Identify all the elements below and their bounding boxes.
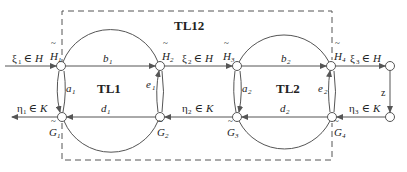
e1-edge-return — [162, 71, 164, 112]
svg-text:1: 1 — [107, 108, 111, 116]
svg-text:~: ~ — [51, 116, 56, 126]
svg-text:∈: ∈ — [192, 102, 206, 114]
svg-text:~: ~ — [335, 38, 340, 48]
label-eta1: η 1 ∈ K — [17, 102, 48, 116]
svg-text:G: G — [334, 126, 342, 138]
svg-text:~: ~ — [224, 38, 229, 48]
node-out-bottom — [386, 113, 395, 122]
svg-text:H: H — [204, 52, 214, 64]
label-xi3: ξ 3 ∈ H — [350, 52, 382, 66]
svg-text:∈: ∈ — [26, 102, 40, 114]
svg-text:~: ~ — [51, 38, 56, 48]
svg-text:K: K — [39, 102, 48, 114]
node-h2 — [156, 62, 165, 71]
svg-text:1: 1 — [72, 88, 76, 96]
label-a2: a 2 — [242, 82, 252, 96]
e1-edge — [157, 71, 159, 112]
svg-text:3: 3 — [234, 132, 239, 140]
svg-text:∈: ∈ — [359, 102, 373, 114]
svg-text:1: 1 — [109, 58, 113, 66]
a1-edge-return — [63, 71, 65, 112]
label-b2: b 2 — [281, 52, 291, 66]
svg-text:~: ~ — [334, 116, 339, 126]
svg-text:e: e — [146, 78, 151, 90]
svg-text:~: ~ — [228, 116, 233, 126]
svg-text:G: G — [49, 126, 57, 138]
svg-text:ξ: ξ — [350, 52, 355, 65]
tl1-lower-arc — [64, 121, 158, 152]
label-g4: ~ G 4 — [334, 116, 346, 140]
node-g1 — [58, 113, 67, 122]
svg-text:~: ~ — [158, 116, 163, 126]
e2-edge — [329, 71, 331, 112]
svg-text:4: 4 — [342, 132, 346, 140]
svg-text:H: H — [372, 52, 382, 64]
label-e2: e 2 — [318, 82, 328, 96]
tl1-label: TL1 — [97, 81, 121, 96]
a1-edge — [57, 71, 60, 112]
label-z: z — [381, 87, 386, 98]
svg-text:∈: ∈ — [359, 52, 373, 64]
label-h3: ~ H 3 — [222, 38, 235, 64]
svg-text:K: K — [372, 102, 381, 114]
svg-text:2: 2 — [286, 108, 290, 116]
label-eta2: η 2 ∈ K — [182, 102, 214, 116]
svg-text:G: G — [157, 126, 165, 138]
node-h4 — [327, 62, 336, 71]
label-h4: ~ H 4 — [333, 38, 346, 64]
svg-text:∈: ∈ — [21, 52, 35, 64]
svg-text:4: 4 — [342, 56, 346, 64]
label-h1: ~ H 1 — [49, 38, 62, 64]
label-b1: b 1 — [103, 52, 113, 66]
svg-text:e: e — [318, 82, 323, 94]
svg-text:2: 2 — [170, 56, 174, 64]
svg-text:1: 1 — [58, 56, 62, 64]
tl12-label: TL12 — [174, 18, 204, 33]
svg-text:K: K — [205, 102, 214, 114]
svg-text:G: G — [227, 126, 235, 138]
tl-diagram: TL12 TL1 TL2 ~ H 1 ~ H 2 ~ — [0, 0, 407, 172]
svg-text:1: 1 — [152, 84, 156, 92]
label-eta3: η 3 ∈ K — [349, 102, 381, 116]
label-h2: ~ H 2 — [161, 38, 174, 64]
svg-text:~: ~ — [163, 38, 168, 48]
svg-text:2: 2 — [165, 132, 169, 140]
svg-text:∈: ∈ — [191, 52, 205, 64]
svg-text:ξ: ξ — [12, 52, 17, 65]
label-d1: d 1 — [101, 102, 111, 116]
tl2-label: TL2 — [276, 81, 300, 96]
svg-text:H: H — [34, 52, 44, 64]
svg-text:2: 2 — [248, 88, 252, 96]
label-xi1: ξ 1 ∈ H — [12, 52, 44, 66]
a2-edge — [239, 71, 241, 112]
node-g3 — [233, 113, 242, 122]
svg-text:2: 2 — [287, 58, 291, 66]
svg-text:ξ: ξ — [182, 52, 187, 65]
svg-text:2: 2 — [324, 88, 328, 96]
svg-text:1: 1 — [57, 132, 61, 140]
a2-edge-return — [234, 71, 236, 112]
label-xi2: ξ 2 ∈ H — [182, 52, 214, 66]
label-a1: a 1 — [66, 82, 76, 96]
e2-edge-return — [334, 71, 336, 112]
tl2-lower-arc — [239, 121, 330, 149]
label-d2: d 2 — [280, 102, 290, 116]
label-e1: e 1 — [146, 78, 156, 92]
node-out-top — [386, 62, 395, 71]
svg-text:3: 3 — [230, 56, 235, 64]
